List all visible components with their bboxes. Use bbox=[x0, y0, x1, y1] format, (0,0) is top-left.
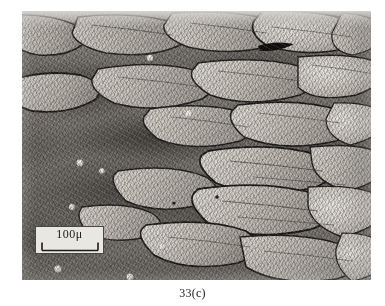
figure-caption: 33(c) bbox=[0, 286, 385, 301]
micrograph-image: 100μ bbox=[22, 11, 371, 280]
scale-bar-label: 100μ bbox=[36, 228, 103, 241]
figure-root: 100μ 33(c) bbox=[0, 0, 385, 306]
scale-bar: 100μ bbox=[35, 226, 104, 254]
scale-bar-ruler-icon bbox=[41, 242, 99, 252]
